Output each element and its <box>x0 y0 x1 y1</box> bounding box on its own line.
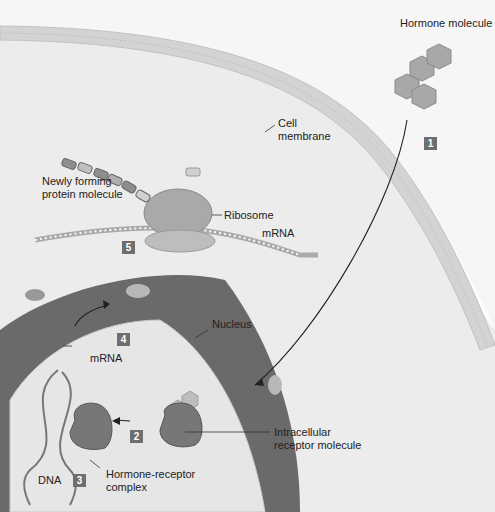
complex-label-1: Hormone-receptor <box>106 468 195 480</box>
intracellular-label-2: receptor molecule <box>274 439 361 451</box>
mrna-top-label: mRNA <box>262 227 294 239</box>
complex-label-2: complex <box>106 481 147 493</box>
step-badge-1: 1 <box>424 137 437 150</box>
dna-label: DNA <box>38 474 61 486</box>
step-badge-4: 4 <box>117 333 130 346</box>
protein-label-1: Newly forming <box>42 175 112 187</box>
nucleus-label: Nucleus <box>212 318 252 330</box>
intracellular-label-1: Intracellular <box>274 426 331 438</box>
step-badge-2: 2 <box>130 430 143 443</box>
cell-membrane-label-2: membrane <box>278 130 331 142</box>
ribosome-small <box>145 230 215 252</box>
step-badge-5: 5 <box>122 241 135 254</box>
hormone-receptor-complex <box>70 403 112 449</box>
cell-membrane-label-1: Cell <box>278 117 297 129</box>
ribosome-label: Ribosome <box>224 209 274 221</box>
step-badge-3: 3 <box>73 474 86 487</box>
protein-label-2: protein molecule <box>42 188 123 200</box>
diagram-canvas <box>0 0 495 512</box>
intracellular-receptor <box>160 403 202 447</box>
hormone-molecule-label: Hormone molecule <box>400 17 492 29</box>
mrna-nucleus-label: mRNA <box>90 352 122 364</box>
